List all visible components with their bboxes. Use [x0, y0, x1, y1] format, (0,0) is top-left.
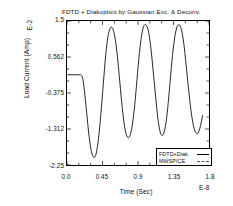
x-axis-tick-label: 1.8	[195, 173, 225, 180]
x-axis-tick-labels: 0.00.450.91.351.8	[66, 173, 210, 185]
legend-line-swatch	[197, 159, 209, 163]
legend-line-swatch	[197, 152, 209, 156]
y-axis-tick-label: -1.312	[28, 125, 64, 132]
x-axis-tick-label: 0.9	[123, 173, 153, 180]
chart-title: FDTD + Diakoptics by Gaussian Exc. & Dec…	[62, 8, 233, 16]
legend-item-label: FDTD+Diak.	[159, 151, 189, 157]
x-axis-exponent-label: E-8	[199, 184, 210, 191]
x-axis-tick-label: 0.45	[87, 173, 117, 180]
data-curve-svg	[67, 21, 209, 165]
legend-item[interactable]: MWSPICE	[159, 157, 209, 164]
x-axis-tick-label: 1.35	[159, 173, 189, 180]
y-axis-tick-label: 1.5	[28, 16, 64, 23]
y-axis-tick-label: -2.25	[28, 162, 64, 169]
x-axis-tick-label: 0.0	[51, 173, 81, 180]
y-axis-tick-label: 0.562	[28, 53, 64, 60]
x-axis-title: Time (Sec)	[62, 188, 210, 195]
series-line-fdtd-diak	[67, 25, 203, 158]
plot-area	[66, 20, 210, 166]
legend-item[interactable]: FDTD+Diak.	[159, 150, 209, 157]
chart-legend: FDTD+Diak.MWSPICE	[156, 148, 212, 166]
legend-item-label: MWSPICE	[159, 158, 185, 164]
axis-tick-marks	[67, 21, 209, 165]
y-axis-tick-label: -0.375	[28, 89, 64, 96]
chart-figure: FDTD + Diakoptics by Gaussian Exc. & Dec…	[0, 0, 233, 206]
